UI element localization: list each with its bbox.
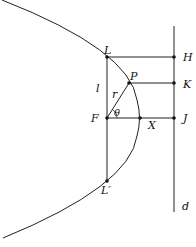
point-F [105,116,109,120]
label-X: X [147,119,157,132]
label-P: P [129,70,138,83]
point-Lprime [105,179,109,183]
label-d: d [182,200,189,213]
label-theta: θ [114,107,120,118]
point-X [138,116,142,120]
point-J [172,116,176,120]
point-K [172,81,176,85]
label-K: K [182,78,192,91]
label-F: F [90,112,99,125]
parabola-diagram: L H P K l r θ F X J L′ d [0,0,196,247]
label-J: J [181,112,188,125]
label-L: L [103,44,111,57]
label-l: l [96,82,100,95]
parabola-curve [2,0,140,238]
label-Lprime: L′ [100,184,111,197]
point-H [172,55,176,59]
label-H: H [182,51,193,64]
label-r: r [112,88,118,101]
